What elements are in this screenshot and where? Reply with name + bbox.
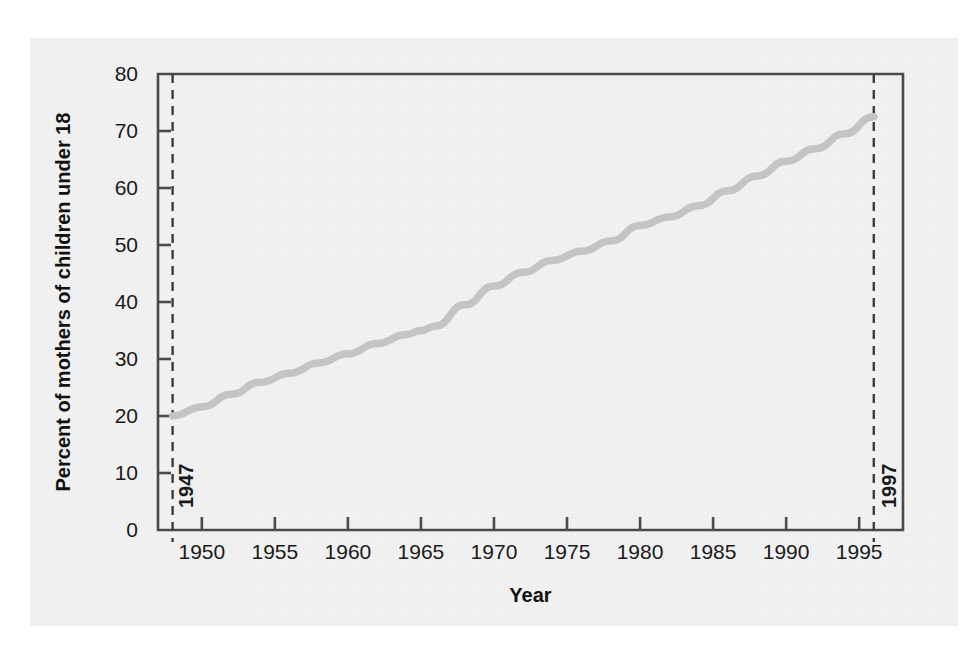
start-year-marker-label: 1947: [175, 464, 197, 509]
y-axis-tick-label: 0: [126, 518, 138, 541]
x-axis-tick-label: 1990: [763, 540, 810, 563]
plot-frame: [158, 74, 903, 530]
y-axis-tick-label: 10: [115, 461, 138, 484]
x-axis-tick-label: 1975: [544, 540, 591, 563]
x-axis-tick-label: 1980: [617, 540, 664, 563]
x-axis-tick-label: 1985: [690, 540, 737, 563]
y-axis-tick-label: 60: [115, 176, 138, 199]
y-axis-tick-label: 50: [115, 233, 138, 256]
end-year-marker-label: 1997: [878, 464, 900, 509]
y-axis-title: Percent of mothers of children under 18: [52, 113, 74, 492]
y-axis-tick-label: 30: [115, 347, 138, 370]
data-line-series-0: [173, 117, 874, 416]
x-axis-tick-label: 1960: [325, 540, 372, 563]
x-axis-tick-label: 1965: [398, 540, 445, 563]
y-axis-tick-label: 40: [115, 290, 138, 313]
x-axis-tick-label: 1995: [836, 540, 883, 563]
chart-panel: 0102030405060708019501955196019651970197…: [30, 38, 958, 626]
y-axis-tick-label: 80: [115, 62, 138, 85]
y-axis-tick-label: 70: [115, 119, 138, 142]
x-axis-tick-label: 1970: [471, 540, 518, 563]
x-axis-title: Year: [509, 584, 551, 606]
x-axis-tick-label: 1950: [178, 540, 225, 563]
y-axis-tick-label: 20: [115, 404, 138, 427]
line-chart: 0102030405060708019501955196019651970197…: [30, 38, 958, 626]
figure-root: 0102030405060708019501955196019651970197…: [0, 0, 980, 655]
x-axis-tick-label: 1955: [252, 540, 299, 563]
